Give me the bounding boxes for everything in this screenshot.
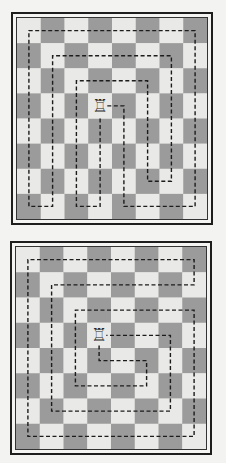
chessboard-top: ♖ (11, 12, 213, 225)
board-svg-bottom: ♖ (16, 247, 206, 449)
board-inner-border: ♖ (15, 246, 207, 450)
board-svg-top: ♖ (17, 18, 207, 219)
board-inner-border: ♖ (16, 17, 208, 220)
rook-icon: ♖ (91, 324, 107, 345)
chessboard-bottom: ♖ (10, 241, 212, 455)
rook-icon: ♖ (92, 95, 108, 116)
